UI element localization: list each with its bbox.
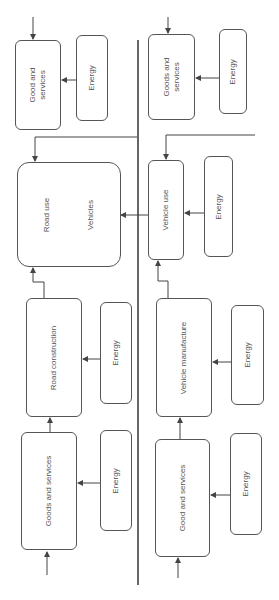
node-energy-top-left: Energy (76, 35, 108, 121)
node-energy-vehicle-manufacture: Energy (231, 305, 264, 405)
node-energy-bottom-right: Energy (230, 433, 262, 535)
node-label: Energy (87, 65, 97, 90)
node-label: Energy (111, 340, 121, 365)
node-label: Goods and services (44, 456, 54, 527)
node-label: Good and services (28, 67, 48, 102)
node-label: Energy (111, 468, 121, 493)
node-energy-road-construction: Energy (100, 302, 132, 404)
node-sub-label: Vehicles (86, 200, 96, 230)
node-road-use: Road use Vehicles (17, 162, 121, 267)
node-label: Energy (214, 194, 224, 219)
node-energy-bottom-left: Energy (100, 430, 132, 531)
node-label: Vehicle use (161, 190, 171, 231)
arrow-road-construction-to-road-use (33, 268, 44, 298)
node-vehicle-use: Vehicle use (148, 160, 184, 260)
node-road-construction: Road construction (26, 298, 82, 417)
node-label: Road use (42, 197, 52, 231)
node-label: Energy (243, 342, 253, 367)
node-goods-and-services-top-right: Goods and services (148, 34, 195, 120)
node-label: Vehicle manufacture (179, 321, 189, 394)
lifecycle-flow-diagram: Good and services Energy Road use Vehicl… (0, 0, 279, 600)
arrow-to-road-use (35, 137, 137, 161)
arrow-vehicle-manufacture-to-vehicle-use (158, 261, 168, 298)
node-energy-top-right: Energy (219, 29, 247, 114)
node-vehicle-manufacture: Vehicle manufacture (156, 298, 212, 417)
node-label: Energy (241, 471, 251, 496)
node-energy-vehicle-use: Energy (204, 156, 233, 257)
node-goods-and-services-top-left: Good and services (15, 40, 61, 130)
node-label: Good and services (178, 465, 188, 532)
node-label: Road construction (49, 325, 59, 389)
node-goods-and-services-bottom-left: Goods and services (21, 432, 77, 550)
node-label: Energy (228, 59, 238, 84)
node-label: Goods and services (162, 57, 182, 96)
node-good-and-services-bottom-right: Good and services (155, 439, 210, 557)
